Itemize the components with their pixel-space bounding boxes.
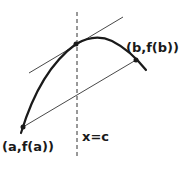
mvt-diagram: (b,f(b)) (a,f(a)) x=c (0, 0, 188, 176)
label-point-a: (a,f(a)) (2, 139, 54, 154)
point-a (21, 125, 26, 130)
point-b (134, 58, 139, 63)
secant-line (23, 60, 136, 127)
label-point-b: (b,f(b)) (126, 40, 179, 55)
label-x-eq-c: x=c (82, 129, 109, 144)
point-c (74, 42, 79, 47)
